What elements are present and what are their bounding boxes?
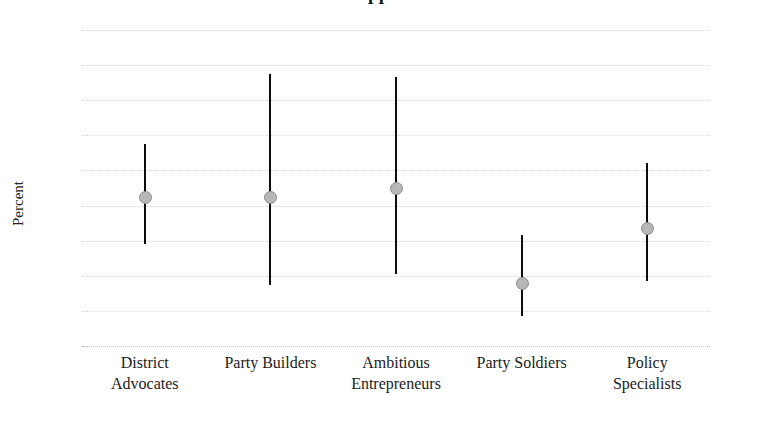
- gridline: [82, 30, 710, 32]
- x-tick-label-line1: Party Soldiers: [476, 354, 566, 371]
- error-bar: [269, 74, 271, 285]
- y-axis-title: Percent: [6, 148, 30, 258]
- gridline: [82, 346, 710, 348]
- x-tick-label-line1: Party Builders: [224, 354, 316, 371]
- x-tick-label-line1: Policy: [627, 354, 668, 371]
- x-tick-label: PolicySpecialists: [567, 352, 727, 394]
- x-tick-label-line2: Entrepreneurs: [316, 373, 476, 394]
- gridline: [82, 311, 710, 313]
- y-axis-title-text: Percent: [10, 181, 27, 226]
- x-tick-label-line1: Ambitious: [362, 354, 430, 371]
- point-marker[interactable]: [264, 191, 277, 204]
- point-marker[interactable]: [516, 277, 529, 290]
- point-marker[interactable]: [139, 191, 152, 204]
- gridline: [82, 65, 710, 67]
- error-bar: [521, 235, 523, 316]
- gridline: [82, 276, 710, 278]
- chart-figure: Support Percent 024681012141618 District…: [0, 0, 761, 423]
- chart-title: Support: [0, 0, 761, 4]
- x-tick-label-line2: Specialists: [567, 373, 727, 394]
- x-tick-label-line2: Advocates: [65, 373, 225, 394]
- point-marker[interactable]: [390, 182, 403, 195]
- x-tick-label-line1: District: [121, 354, 169, 371]
- point-marker[interactable]: [641, 222, 654, 235]
- plot-area: 024681012141618: [82, 30, 710, 346]
- error-bar: [395, 77, 397, 274]
